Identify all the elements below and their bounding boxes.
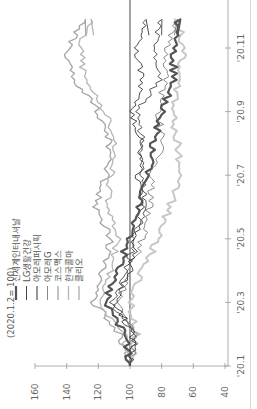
series-line: [105, 19, 180, 366]
time-tick-label: '20.11: [236, 34, 246, 62]
legend-label: 코스맥스: [53, 250, 63, 282]
time-tick-label: '20.5: [236, 228, 246, 251]
legend-label: 아모레G: [43, 251, 53, 282]
legend: (2020.1.2= 100)신세계인터내셔날LG생활건강아모레퍼시픽아모레G코…: [6, 218, 84, 338]
legend-label: 신세계인터내셔날: [11, 218, 21, 282]
value-tick-label: 120: [93, 383, 103, 400]
value-axis-ticks: 160140120100806040: [30, 363, 230, 401]
time-tick-label: '20.9: [236, 100, 246, 123]
value-tick-label: 40: [220, 386, 230, 398]
legend-label: 클리오: [74, 258, 84, 282]
time-tick-label: '20.1: [236, 355, 246, 378]
series-lines: [65, 19, 187, 366]
time-tick-label: '20.3: [236, 291, 246, 314]
value-tick-label: 160: [30, 383, 40, 400]
series-line: [109, 19, 162, 366]
value-tick-label: 140: [62, 383, 72, 400]
value-tick-label: 80: [157, 386, 167, 398]
value-tick-label: 60: [188, 386, 198, 398]
legend-label: 아모레퍼시픽: [32, 234, 42, 282]
legend-label: 한국콜마: [64, 250, 74, 282]
time-tick-label: '20.7: [236, 164, 246, 187]
legend-label: LG생활건강: [22, 239, 32, 282]
line-chart: 160140120100806040 '20.1'20.3'20.5'20.7'…: [0, 0, 257, 409]
series-line: [129, 19, 187, 366]
value-tick-label: 100: [125, 383, 135, 400]
series-line: [117, 19, 177, 366]
